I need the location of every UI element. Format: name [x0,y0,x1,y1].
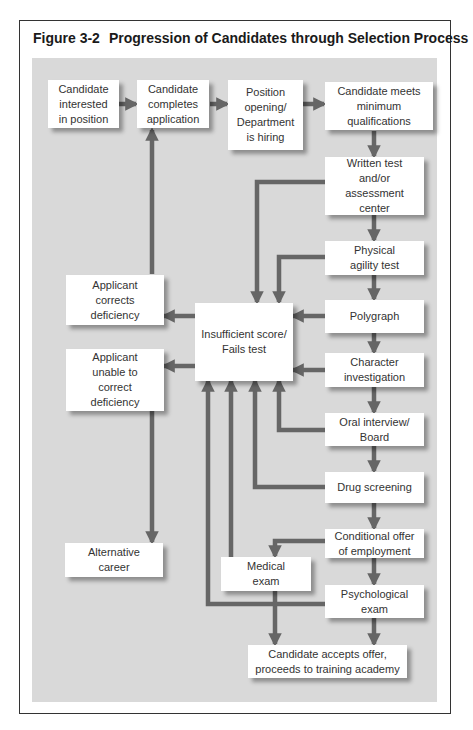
node-character-investigation: Character investigation [325,353,424,387]
arrow-physical-to-insufficient [279,257,325,302]
node-conditional-offer: Conditional offer of employment [325,529,424,558]
node-psychological-exam: Psychological exam [325,585,424,618]
node-alternative-career: Alternative career [65,543,163,577]
node-physical-agility: Physical agility test [325,241,424,275]
node-medical-exam: Medical exam [221,557,311,591]
arrow-oral-to-insufficient [279,381,325,430]
node-position-opening: Position opening/ Department is hiring [228,80,303,150]
node-insufficient-score: Insufficient score/ Fails test [195,303,293,381]
node-candidate-interested: Candidate interested in position [48,80,119,128]
node-applicant-corrects: Applicant corrects deficiency [66,275,164,325]
node-polygraph: Polygraph [325,300,424,333]
node-candidate-completes: Candidate completes application [137,80,209,128]
node-oral-interview: Oral interview/ Board [325,413,424,446]
node-written-test: Written test and/or assessment center [325,157,424,215]
arrow-written-to-insufficient [257,182,325,302]
node-drug-screening: Drug screening [325,472,424,503]
arrow-drug-to-insufficient [255,381,325,487]
arrow-conditional-to-medical [275,541,325,556]
node-candidate-accepts: Candidate accepts offer, proceeds to tra… [248,645,407,678]
node-applicant-unable: Applicant unable to correct deficiency [66,349,164,411]
node-candidate-meets: Candidate meets minimum qualifications [325,82,433,130]
